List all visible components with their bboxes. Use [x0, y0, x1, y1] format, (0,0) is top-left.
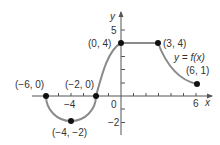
function-graph: (−6, 0) (−4, −2) (−2, 0) (0, 4) (3, 4) (…: [0, 0, 220, 145]
label-neg6-0: (−6, 0): [15, 79, 44, 90]
label-3-4: (3, 4): [163, 38, 186, 49]
x-tick-label-6: 6: [193, 98, 199, 109]
y-tick-label-neg2: −2: [108, 117, 120, 128]
point-neg6-0: [43, 93, 49, 99]
point-neg2-0: [93, 93, 99, 99]
point-6-1: [194, 81, 200, 87]
point-neg4-neg2: [68, 118, 74, 124]
y-tick-label-5: 5: [111, 25, 117, 36]
label-neg2-0: (−2, 0): [65, 79, 94, 90]
label-neg4-neg2: (−4, −2): [52, 127, 87, 138]
rising-segment: [96, 43, 121, 96]
origin-label: 0: [111, 99, 117, 110]
falling-segment: [158, 43, 197, 84]
function-label: y = f(x): [173, 52, 205, 63]
y-axis-label: y: [109, 11, 116, 22]
label-0-4: (0, 4): [88, 38, 111, 49]
x-axis-label: x: [204, 97, 211, 108]
x-tick-label-neg4: −4: [64, 99, 76, 110]
point-0-4: [118, 40, 124, 46]
point-3-4: [155, 40, 161, 46]
label-6-1: (6, 1): [186, 65, 209, 76]
